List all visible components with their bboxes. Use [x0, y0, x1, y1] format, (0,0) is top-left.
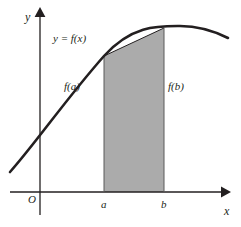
shaded-region [104, 28, 164, 192]
function-label: y = f(x) [53, 33, 86, 44]
origin-label: O [28, 194, 36, 205]
integral-figure-canvas [0, 0, 241, 227]
figure-container: y y = f(x) f(a) f(b) O a b x [0, 0, 241, 227]
arrow-up-icon [35, 7, 46, 17]
f-of-a-label: f(a) [64, 81, 80, 92]
f-of-b-label: f(b) [168, 81, 184, 92]
x-tick-label-a: a [101, 199, 107, 210]
x-tick-label-b: b [161, 199, 167, 210]
x-axis-label: x [224, 205, 229, 217]
arrow-right-icon [221, 187, 231, 198]
y-axis-label: y [25, 11, 30, 23]
